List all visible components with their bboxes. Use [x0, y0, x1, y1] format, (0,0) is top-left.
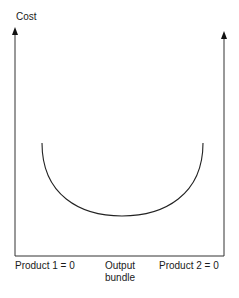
x-label-product1: Product 1 = 0 [15, 260, 75, 272]
cost-curve [42, 143, 203, 216]
left-axis-arrow-icon [12, 27, 18, 35]
x-label-bundle: bundle [98, 272, 142, 284]
x-label-output-bundle: Output bundle [98, 260, 142, 284]
diagram-canvas [0, 0, 239, 298]
x-label-product2: Product 2 = 0 [159, 260, 219, 272]
x-label-output: Output [98, 260, 142, 272]
y-axis-label: Cost [16, 11, 37, 23]
right-axis-arrow-icon [221, 31, 227, 39]
